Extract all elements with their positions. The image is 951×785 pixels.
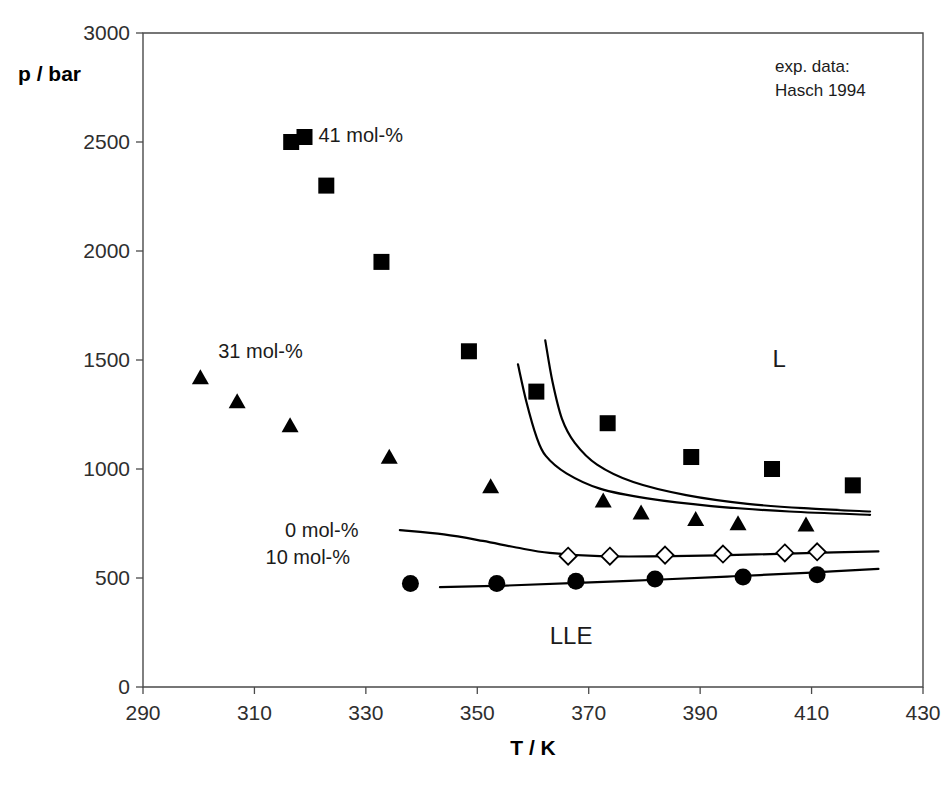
data-point — [229, 393, 246, 408]
data-point — [657, 547, 674, 564]
label-41: 41 mol-% — [319, 124, 404, 146]
data-point — [601, 548, 618, 565]
label-0: 0 mol-% — [285, 519, 359, 541]
data-point — [687, 511, 704, 526]
data-point — [402, 575, 419, 592]
series-0-mol- — [560, 543, 826, 564]
data-point — [714, 546, 731, 563]
data-point — [809, 543, 826, 560]
data-point — [488, 575, 505, 592]
y-tick-label-2500: 2500 — [83, 130, 130, 153]
label-41-marker — [297, 129, 313, 145]
data-point — [633, 504, 650, 519]
y-tick-label-1500: 1500 — [83, 348, 130, 371]
model-curves — [400, 340, 879, 587]
x-tick-label-350: 350 — [460, 701, 495, 724]
data-point — [528, 384, 544, 400]
model-curve — [400, 530, 879, 556]
x-tick-label-370: 370 — [571, 701, 606, 724]
label-31: 31 mol-% — [218, 340, 303, 362]
x-tick-label-390: 390 — [683, 701, 718, 724]
series-10-mol- — [402, 566, 826, 592]
x-tick-label-310: 310 — [237, 701, 272, 724]
data-point — [600, 415, 616, 431]
data-point — [482, 478, 499, 493]
label-L: L — [773, 345, 786, 372]
data-point — [282, 417, 299, 432]
data-point — [798, 516, 815, 531]
x-tick-label-430: 430 — [905, 701, 940, 724]
y-axis-title: p / bar — [18, 62, 81, 85]
y-tick-label-1000: 1000 — [83, 457, 130, 480]
x-tick-label-290: 290 — [125, 701, 160, 724]
y-tick-label-3000: 3000 — [83, 21, 130, 44]
data-point — [735, 568, 752, 585]
x-axis-title: T / K — [510, 736, 556, 759]
y-tick-label-2000: 2000 — [83, 239, 130, 262]
chart-figure: 0500100015002000250030002903103303503703… — [0, 0, 951, 785]
y-tick-label-0: 0 — [118, 675, 130, 698]
data-point — [595, 492, 612, 507]
data-point — [683, 449, 699, 465]
data-point — [845, 477, 861, 493]
data-point — [809, 566, 826, 583]
data-point — [192, 369, 209, 384]
x-tick-label-330: 330 — [348, 701, 383, 724]
data-point — [567, 573, 584, 590]
label-10: 10 mol-% — [266, 546, 351, 568]
source-note-line2: Hasch 1994 — [775, 81, 866, 100]
data-point — [373, 254, 389, 270]
data-point — [461, 343, 477, 359]
x-tick-label-410: 410 — [794, 701, 829, 724]
data-point — [764, 461, 780, 477]
data-point — [381, 449, 398, 464]
label-41-swatch — [297, 129, 313, 145]
data-point — [776, 544, 793, 561]
label-LLE: LLE — [550, 622, 593, 649]
y-tick-label-500: 500 — [95, 566, 130, 589]
model-curve — [518, 364, 870, 514]
phase-diagram-plot: 0500100015002000250030002903103303503703… — [0, 0, 951, 785]
data-point — [560, 548, 577, 565]
data-point — [318, 178, 334, 194]
data-point — [730, 515, 747, 530]
source-note-line1: exp. data: — [775, 57, 850, 76]
data-point — [647, 571, 664, 588]
